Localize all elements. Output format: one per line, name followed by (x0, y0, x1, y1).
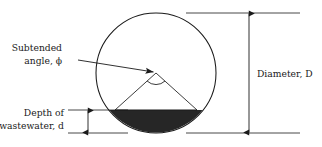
radius-line-right (156, 73, 197, 110)
subtended-angle-label-prefix: angle, (24, 55, 56, 66)
radius-line-left (115, 73, 156, 110)
pipe-cross-section-figure: Subtended angle, ϕ Depth of wastewater, … (0, 0, 322, 147)
depth-symbol: d (58, 120, 64, 131)
depth-label-line2: wastewater, d (0, 120, 64, 131)
diameter-label-text: Diameter, D (257, 68, 313, 79)
subtended-angle-leader-line (78, 60, 154, 72)
subtended-angle-arc (147, 81, 165, 85)
subtended-angle-symbol: ϕ (56, 55, 62, 66)
subtended-angle-label-line1: Subtended (12, 42, 62, 53)
diameter-label-prefix: Diameter, (257, 68, 305, 79)
subtended-angle-label: Subtended angle, ϕ (12, 42, 62, 66)
depth-label-prefix: wastewater, (0, 120, 58, 131)
depth-label-line1: Depth of (24, 107, 65, 118)
subtended-angle-label-line2: angle, ϕ (24, 55, 62, 66)
diagram-canvas: Subtended angle, ϕ Depth of wastewater, … (0, 0, 322, 147)
depth-label: Depth of wastewater, d (0, 107, 65, 131)
diameter-symbol: D (305, 68, 312, 79)
diameter-label: Diameter, D (257, 68, 313, 79)
